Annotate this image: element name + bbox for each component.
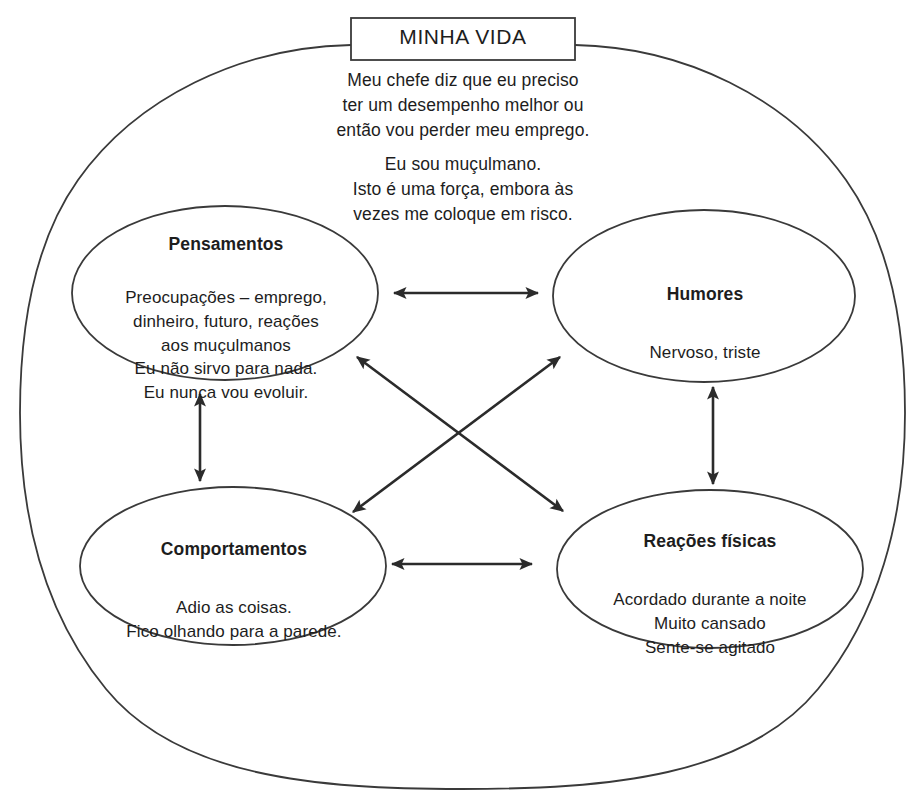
node-moods: Humores Nervoso, triste [573, 258, 837, 389]
node-physical-reactions-title: Reações físicas [562, 529, 858, 554]
diagram-canvas: MINHA VIDA Meu chefe diz que eu preciso … [0, 0, 916, 808]
title-box-label: MINHA VIDA [351, 26, 575, 47]
node-moods-title: Humores [573, 282, 837, 307]
connector-moods-behaviours [353, 357, 560, 512]
node-thoughts: Pensamentos Preocupações – emprego, dinh… [78, 208, 374, 429]
narrative-paragraph-1: Meu chefe diz que eu preciso ter um dese… [281, 68, 645, 143]
node-behaviours-title: Comportamentos [88, 537, 380, 562]
node-moods-body: Nervoso, triste [573, 341, 837, 365]
node-behaviours: Comportamentos Adio as coisas. Fico olha… [88, 513, 380, 667]
node-behaviours-body: Adio as coisas. Fico olhando para a pare… [88, 596, 380, 644]
node-physical-reactions: Reações físicas Acordado durante a noite… [562, 505, 858, 683]
node-thoughts-title: Pensamentos [78, 232, 374, 257]
connector-thoughts-physical [357, 357, 563, 511]
node-physical-reactions-body: Acordado durante a noite Muito cansado S… [562, 588, 858, 659]
node-thoughts-body: Preocupações – emprego, dinheiro, futuro… [78, 286, 374, 405]
